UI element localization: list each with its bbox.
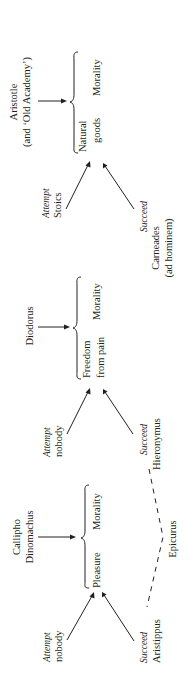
term-pleasure: Pleasure <box>91 552 102 588</box>
arrowhead-icon <box>90 592 95 599</box>
brace-icon <box>81 485 89 588</box>
arrowhead-icon <box>86 161 91 168</box>
attempt-who: nobody <box>53 630 64 662</box>
succeed-label: Succeed <box>139 201 149 232</box>
term-freedom: Freedom <box>81 341 92 378</box>
term-morality: Morality <box>91 59 102 96</box>
succeed-who-sub: (ad hominem) <box>163 218 175 278</box>
succeed-who: Hieronymus <box>151 418 162 470</box>
heading-callipho: Callipho <box>11 519 22 555</box>
arrowhead-icon <box>86 388 91 395</box>
heading-aristotle: Aristotle <box>8 83 19 120</box>
attempt-label: Attempt <box>42 632 52 663</box>
arrowhead-icon <box>61 99 67 104</box>
succeed-who: Aristippus <box>151 619 162 663</box>
arrowhead-icon <box>70 535 76 540</box>
arrowhead-icon <box>103 389 108 395</box>
hedonism-morality-diagram: Aristotle (and ‘Old Academy’) Natural go… <box>0 0 196 691</box>
arrow-attempt <box>67 596 92 640</box>
term-from-pain: from pain <box>95 336 106 378</box>
heading-diodorus: Diodorus <box>24 306 35 345</box>
panel-callipho: Callipho Dinomachus Pleasure Morality At… <box>11 485 162 663</box>
heading-dinomachus: Dinomachus <box>24 510 35 563</box>
arrow-attempt <box>67 392 88 434</box>
attempt-who: Stoics <box>52 192 63 218</box>
succeed-label: Succeed <box>139 632 149 663</box>
heading-aristotle-sub: (and ‘Old Academy’) <box>21 57 33 147</box>
arrow-succeed <box>105 166 134 209</box>
panel-aristotle: Aristotle (and ‘Old Academy’) Natural go… <box>8 52 175 278</box>
arrowhead-icon <box>103 163 108 169</box>
panel-diodorus: Diodorus Freedom from pain Morality Atte… <box>24 277 162 470</box>
epicurus-link: Epicurus <box>147 469 178 607</box>
arrowhead-icon <box>102 592 107 598</box>
attempt-who: nobody <box>53 425 64 457</box>
dashed-connector <box>147 469 163 607</box>
succeed-label: Succeed <box>139 424 149 455</box>
brace-icon <box>73 277 81 379</box>
attempt-label: Attempt <box>42 427 52 458</box>
arrow-succeed <box>104 595 134 641</box>
arrow-succeed <box>105 392 133 434</box>
succeed-who: Carneades <box>150 226 161 270</box>
attempt-label: Attempt <box>41 188 51 219</box>
term-goods: goods <box>91 118 102 143</box>
epicurus-label: Epicurus <box>167 520 178 557</box>
arrow-attempt <box>66 165 88 209</box>
term-morality: Morality <box>91 283 102 320</box>
arrowhead-icon <box>64 325 70 330</box>
term-natural: Natural <box>77 120 88 152</box>
term-morality: Morality <box>91 493 102 530</box>
